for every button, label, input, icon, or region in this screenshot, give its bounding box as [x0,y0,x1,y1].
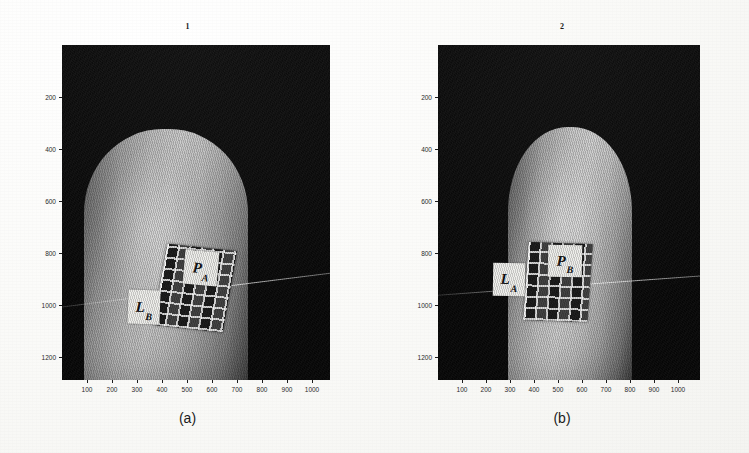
x-tick-label: 800 [625,386,636,393]
x-tick-label: 400 [157,386,168,393]
pattern-label-tile-b: PB [548,245,583,278]
x-tick-label: 200 [481,386,492,393]
subplot-a: 1 PA LB [0,0,375,453]
x-tick-label: 300 [132,386,143,393]
x-tick-label: 500 [553,386,564,393]
panel-caption-a: (a) [0,410,375,426]
x-tick-label: 300 [505,386,516,393]
axes-image-a[interactable]: PA LB [62,45,330,380]
y-tick-label: 800 [408,250,432,257]
x-tick-label: 600 [207,386,218,393]
y-tick-label: 600 [408,198,432,205]
y-tick-label: 200 [32,94,56,101]
x-tick-label: 500 [182,386,193,393]
pattern-label-tile-a: PA [183,250,220,287]
y-tick-label: 200 [408,94,432,101]
x-tick-label: 900 [282,386,293,393]
pattern-label-base-a: P [192,260,202,276]
axes-title-b: 2 [375,22,749,31]
light-label-tile-b: LA [493,263,526,297]
y-tick-label: 1000 [32,302,56,309]
x-tick-label: 400 [529,386,540,393]
x-tick-label: 100 [457,386,468,393]
pattern-label-base-b: P [556,253,565,268]
light-label-base-a: L [135,299,145,314]
x-tick-label: 200 [107,386,118,393]
x-tick-label: 800 [257,386,268,393]
y-tick-label: 800 [32,250,56,257]
subplot-b: 2 PB LA [375,0,749,453]
axes-title-a: 1 [0,22,375,31]
axes-image-b[interactable]: PB LA [438,45,700,380]
figure-row: 1 PA LB [0,0,749,453]
x-tick-label: 600 [577,386,588,393]
light-label-sub-b: A [510,284,517,294]
y-tick-label: 400 [32,146,56,153]
x-tick-label: 1000 [671,386,685,393]
x-tick-label: 700 [601,386,612,393]
y-tick-label: 1200 [408,354,432,361]
pattern-label-sub-b: B [567,265,574,275]
y-tick-label: 1000 [408,302,432,309]
pattern-label-sub-a: A [201,273,209,284]
y-tick-label: 1200 [32,354,56,361]
x-tick-label: 100 [82,386,93,393]
panel-caption-b: (b) [375,410,749,426]
x-tick-label: 1000 [305,386,319,393]
x-tick-label: 900 [649,386,660,393]
y-tick-label: 400 [408,146,432,153]
light-label-tile-a: LB [127,289,160,324]
light-label-sub-a: B [145,312,152,322]
y-tick-label: 600 [32,198,56,205]
light-label-base-b: L [500,272,509,287]
x-tick-label: 700 [232,386,243,393]
